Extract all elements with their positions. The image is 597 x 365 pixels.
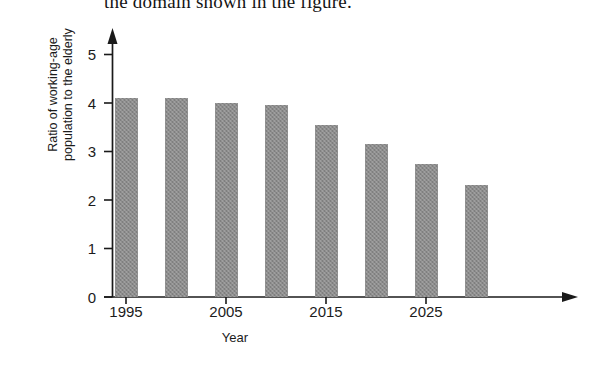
y-tick-label-0: 0 xyxy=(74,289,96,306)
bar-2000 xyxy=(165,98,188,297)
x-axis-title: Year xyxy=(0,330,470,345)
y-tick-label-2: 2 xyxy=(74,192,96,209)
y-tick-label-1: 1 xyxy=(74,240,96,257)
x-tick-label-2025: 2025 xyxy=(396,303,456,320)
bar-2020 xyxy=(365,144,388,297)
bar-2015 xyxy=(315,125,338,297)
y-tick-label-3: 3 xyxy=(74,143,96,160)
y-tick-label-4: 4 xyxy=(74,95,96,112)
y-tick-label-5: 5 xyxy=(74,46,96,63)
bar-chart-figure: 0 1 2 3 4 5 1995 2005 2015 2025 Ratio of… xyxy=(0,0,597,365)
bar-1995 xyxy=(115,98,138,297)
y-axis-ticks xyxy=(104,55,112,298)
y-axis-title: Ratio of working-age population to the e… xyxy=(46,0,75,225)
x-axis-ticks xyxy=(126,297,426,304)
x-tick-label-1995: 1995 xyxy=(96,303,156,320)
x-axis-arrowhead xyxy=(562,292,578,302)
bar-2030 xyxy=(465,185,488,297)
bar-2005 xyxy=(215,103,238,297)
y-axis-arrowhead xyxy=(108,28,118,44)
bar-2025 xyxy=(415,164,438,297)
bar-2010 xyxy=(265,105,288,297)
x-tick-label-2015: 2015 xyxy=(296,303,356,320)
y-axis-title-line-2: population to the elderly xyxy=(60,0,75,225)
y-axis-title-line-1: Ratio of working-age xyxy=(46,0,61,225)
x-tick-label-2005: 2005 xyxy=(196,303,256,320)
